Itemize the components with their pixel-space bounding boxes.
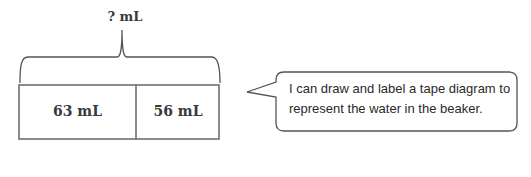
callout-text: I can draw and label a tape diagram to r… [289, 79, 514, 119]
segment-label-1: 63 mL [19, 103, 136, 119]
total-brace [20, 30, 220, 83]
tape-diagram-figure: ? mL 63 mL 56 mL I can draw and label a … [0, 0, 531, 177]
segment-label-2: 56 mL [137, 103, 219, 119]
total-label: ? mL [100, 9, 150, 24]
